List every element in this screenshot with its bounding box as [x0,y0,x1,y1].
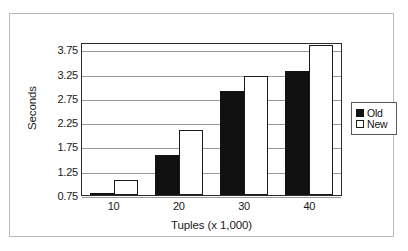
y-axis-tick: 3.25 [34,70,78,81]
bar-group [147,44,212,195]
y-axis-tick: 1.25 [34,167,78,178]
bar-old-40 [285,71,309,195]
x-axis-tick-labels: 10203040 [81,200,342,216]
chart-legend: OldNew [351,102,397,135]
filled-black-square-icon [356,109,364,117]
bar-old-20 [155,155,179,195]
bar-new-10 [114,180,138,195]
bar-group [82,44,147,195]
bar-new-40 [309,45,333,195]
gridline [82,197,341,198]
bar-old-30 [220,91,244,195]
legend-item-old: Old [356,108,392,118]
bar-group [276,44,341,195]
y-axis-tick: 2.25 [34,118,78,129]
x-axis-tick: 30 [212,200,277,216]
y-axis-tick: 3.75 [34,45,78,56]
x-axis-tick: 40 [277,200,342,216]
bar-groups [82,44,341,195]
legend-item-new: New [356,119,392,129]
y-axis-tick: 2.75 [34,94,78,105]
chart-frame: Seconds 3.753.252.752.251.751.250.75 102… [9,13,394,237]
y-axis-tick-labels: 3.753.252.752.251.751.250.75 [30,43,78,196]
x-axis-tick: 20 [146,200,211,216]
y-axis-tick: 1.75 [34,142,78,153]
bar-old-10 [90,193,114,195]
empty-white-square-icon [356,120,364,128]
bar-new-30 [244,76,268,195]
plot-area [81,43,342,196]
y-axis-tick: 0.75 [34,191,78,202]
legend-label: Old [367,108,383,118]
x-axis-tick: 10 [81,200,146,216]
bar-group [212,44,277,195]
bar-new-20 [179,130,203,195]
x-axis-title: Tuples (x 1,000) [81,219,342,231]
legend-label: New [367,119,387,129]
